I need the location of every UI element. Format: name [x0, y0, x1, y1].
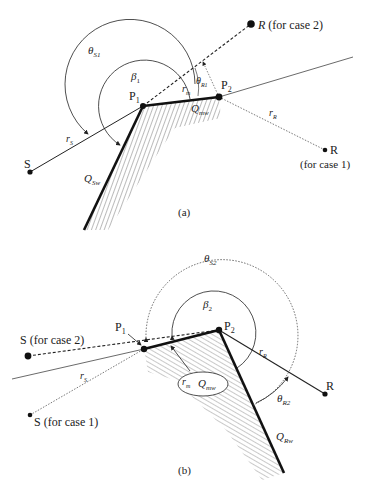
- label-P2-b: P2: [224, 319, 235, 335]
- label-rS-b: rS: [80, 370, 87, 383]
- ray-thin-b: [12, 349, 144, 379]
- label-P1-a: P1: [129, 89, 140, 105]
- label-S-a: S: [24, 157, 31, 171]
- label-thetaS2: θS2: [204, 252, 217, 267]
- ray-rS-b: [30, 349, 144, 415]
- P1-pointer: [128, 334, 141, 345]
- label-rR-a: rR: [269, 107, 277, 120]
- label-R-b: R: [326, 379, 334, 393]
- label-beta2: β2: [202, 298, 212, 313]
- label-S-case2: S (for case 2): [20, 333, 84, 347]
- label-P1-b: P1: [115, 320, 126, 336]
- caption-a: (a): [178, 206, 191, 219]
- label-R-case2: R (for case 2): [257, 18, 323, 32]
- diffraction-geometry-figure: S P1 P2 R (for case 2) R (for case 1) θS…: [0, 0, 368, 496]
- label-S-case1: S (for case 1): [34, 415, 98, 429]
- ray-extension: [219, 57, 353, 97]
- figure-b: S (for case 2) S (for case 1) P1 P2 R θS…: [12, 252, 334, 480]
- caption-b: (b): [178, 464, 191, 477]
- point-P2-b: [216, 327, 222, 333]
- point-P1-a: [140, 103, 146, 109]
- ray-to-R-case2: [143, 24, 251, 106]
- label-R-case1: R: [330, 143, 338, 157]
- point-P1-b: [141, 346, 147, 352]
- label-rS-a: rS: [66, 133, 73, 146]
- figure-a: S P1 P2 R (for case 2) R (for case 1) θS…: [24, 18, 353, 230]
- point-R-case1: [323, 148, 328, 153]
- label-thetaR2: θR2: [277, 392, 291, 407]
- point-R-case2: [247, 20, 255, 28]
- theta-R1-line: [203, 62, 219, 97]
- point-S-case2: [25, 353, 32, 360]
- label-beta1: β1: [130, 70, 140, 85]
- label-thetaR1: θR1: [196, 75, 208, 88]
- label-thetaS1: θS1: [88, 44, 100, 59]
- label-rR-b: rR: [259, 346, 267, 359]
- label-rm-a: rm: [182, 83, 191, 96]
- diagram-canvas: S P1 P2 R (for case 2) R (for case 1) θS…: [0, 0, 368, 496]
- label-P2-a: P2: [221, 78, 232, 94]
- point-S-case1: [28, 413, 33, 418]
- label-QSw: QSw: [84, 172, 100, 187]
- label-QRw: QRw: [276, 430, 293, 445]
- ray-rR: [219, 97, 325, 150]
- point-P2-a: [216, 94, 223, 101]
- label-R-case1-note: (for case 1): [300, 158, 350, 171]
